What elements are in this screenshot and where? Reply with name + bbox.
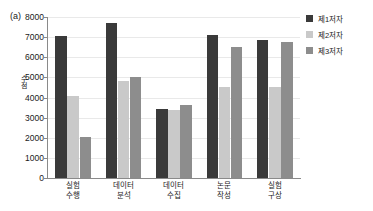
y-axis-tick-label: 5000 bbox=[10, 72, 44, 82]
x-axis-tick-label-line2: 구상 bbox=[250, 191, 300, 201]
y-axis-tick-label: 0 bbox=[10, 173, 44, 183]
x-axis-tick-label-line1: 실험 bbox=[268, 181, 282, 190]
bar-group bbox=[106, 17, 142, 178]
bar bbox=[207, 35, 219, 178]
bar-group bbox=[207, 17, 243, 178]
figure-panel-a: (a) 수점 010002000300040005000600070008000… bbox=[0, 0, 373, 211]
legend-swatch bbox=[306, 31, 313, 38]
y-axis-tick-label: 3000 bbox=[10, 113, 44, 123]
y-axis-tick-mark bbox=[44, 37, 48, 38]
bar bbox=[80, 137, 92, 178]
y-axis-tick-mark bbox=[44, 98, 48, 99]
legend-label: 제2저자 bbox=[318, 29, 343, 40]
bar-group bbox=[257, 17, 293, 178]
bar bbox=[269, 87, 281, 178]
x-axis-tick-label-line2: 수행 bbox=[48, 191, 98, 201]
x-axis-tick-label: 실험수행 bbox=[48, 181, 98, 201]
legend-label: 제1저자 bbox=[318, 13, 343, 24]
y-axis-tick-label: 8000 bbox=[10, 12, 44, 22]
legend-item: 제2저자 bbox=[306, 30, 343, 39]
y-axis-tick-label: 2000 bbox=[10, 133, 44, 143]
x-axis-tick-label-line2: 수집 bbox=[149, 191, 199, 201]
y-axis-tick-label: 1000 bbox=[10, 153, 44, 163]
y-axis-tick-label: 4000 bbox=[10, 93, 44, 103]
y-axis-tick-mark bbox=[44, 178, 48, 179]
bar bbox=[118, 81, 130, 178]
bar bbox=[106, 23, 118, 178]
x-axis-tick-label-line2: 분석 bbox=[98, 191, 148, 201]
bar bbox=[257, 40, 269, 178]
x-axis-tick-label-line1: 논문 bbox=[217, 181, 231, 190]
bar bbox=[55, 36, 67, 178]
x-axis-tick-label: 데이터분석 bbox=[98, 181, 148, 201]
x-axis-tick-label: 실험구상 bbox=[250, 181, 300, 201]
y-axis-tick-mark bbox=[44, 57, 48, 58]
y-axis-tick-mark bbox=[44, 138, 48, 139]
bar bbox=[168, 110, 180, 178]
bar bbox=[281, 42, 293, 178]
y-axis-tick-mark bbox=[44, 17, 48, 18]
plot-area bbox=[48, 17, 300, 178]
y-axis-tick-mark bbox=[44, 118, 48, 119]
bar bbox=[130, 77, 142, 178]
y-axis-tick-label: 7000 bbox=[10, 32, 44, 42]
legend-item: 제1저자 bbox=[306, 14, 343, 23]
legend-label: 제3저자 bbox=[318, 45, 343, 56]
x-axis-tick-label-line1: 데이터 bbox=[113, 181, 134, 190]
legend-swatch bbox=[306, 15, 313, 22]
x-axis-line bbox=[47, 178, 301, 179]
x-axis-tick-label: 데이터수집 bbox=[149, 181, 199, 201]
bar bbox=[219, 87, 231, 178]
legend-item: 제3저자 bbox=[306, 46, 343, 55]
x-axis-tick-label: 논문작성 bbox=[199, 181, 249, 201]
y-axis-tick-label: 6000 bbox=[10, 52, 44, 62]
x-axis-tick-label-line2: 작성 bbox=[199, 191, 249, 201]
y-axis-tick-mark bbox=[44, 158, 48, 159]
bar bbox=[180, 105, 192, 178]
bar bbox=[156, 109, 168, 178]
bar bbox=[231, 47, 243, 178]
legend: 제1저자제2저자제3저자 bbox=[306, 14, 343, 62]
legend-swatch bbox=[306, 47, 313, 54]
bar bbox=[67, 96, 79, 179]
y-axis-tick-mark bbox=[44, 77, 48, 78]
y-axis-tick-labels: 010002000300040005000600070008000 bbox=[4, 0, 44, 211]
bar-group bbox=[156, 17, 192, 178]
x-axis-tick-label-line1: 데이터 bbox=[163, 181, 184, 190]
x-axis-tick-label-line1: 실험 bbox=[66, 181, 80, 190]
bar-group bbox=[55, 17, 91, 178]
